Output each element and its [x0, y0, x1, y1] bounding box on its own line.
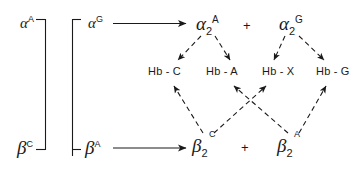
dimer-alpha2-A-subscript: 2 [206, 25, 212, 37]
dimer-beta2-C: β2 [192, 136, 208, 159]
arrow-beta2C-to-HbX [214, 86, 266, 133]
gene-beta-C-superscript: C [26, 139, 33, 149]
gene-alpha-A: αA [20, 15, 34, 31]
right-bracket [73, 19, 82, 156]
dimer-alpha2-G: α2G [279, 14, 303, 37]
dimer-beta2-C-superscript: C [209, 130, 216, 139]
dimer-alpha2-A-symbol: α [196, 13, 206, 34]
arrow-alpha2A-to-HbA [215, 36, 230, 60]
diagram-lines-layer [0, 0, 359, 169]
dimer-alpha2-G-symbol: α [279, 13, 289, 34]
hemoglobin-hb-a: Hb - A [206, 66, 238, 77]
dimer-alpha2-A-superscript: A [212, 14, 219, 25]
gene-beta-A: βA [85, 138, 101, 157]
hemoglobin-hb-g: Hb - G [316, 66, 350, 77]
arrow-alpha2G-to-HbX [274, 36, 285, 60]
arrow-beta2A-to-HbA [234, 86, 288, 133]
hemoglobin-hb-c: Hb - C [148, 66, 181, 77]
dimer-alpha2-G-subscript: 2 [289, 25, 295, 37]
arrow-beta2C-to-HbC [174, 86, 203, 133]
gene-alpha-G-superscript: G [96, 14, 103, 24]
gene-alpha-G: αG [88, 15, 103, 31]
hemoglobin-hb-x: Hb - X [262, 66, 294, 77]
hemoglobin-chain-combination-diagram: αA βC αG βA α2A + α2G Hb - C Hb - A Hb -… [0, 0, 359, 169]
arrow-beta2A-to-HbG [299, 86, 326, 133]
dimer-alpha2-A: α2A [196, 14, 219, 37]
plus-sign-top: + [243, 19, 251, 32]
arrow-alpha2A-to-HbC [178, 36, 201, 60]
gene-alpha-G-symbol: α [88, 15, 96, 31]
dimer-beta2-C-subscript: 2 [201, 147, 207, 159]
gene-beta-C: βC [17, 138, 33, 157]
arrow-alpha2G-to-HbG [299, 36, 324, 60]
dimer-beta2-A: β2 [277, 136, 293, 159]
gene-alpha-A-symbol: α [20, 15, 28, 31]
dimer-alpha2-G-superscript: G [295, 14, 303, 25]
left-bracket [36, 19, 46, 150]
gene-alpha-A-superscript: A [28, 14, 34, 24]
gene-beta-A-superscript: A [94, 139, 100, 149]
dimer-beta2-A-superscript: A [294, 130, 300, 139]
dimer-beta2-A-subscript: 2 [286, 147, 292, 159]
plus-sign-bottom: + [241, 141, 249, 154]
